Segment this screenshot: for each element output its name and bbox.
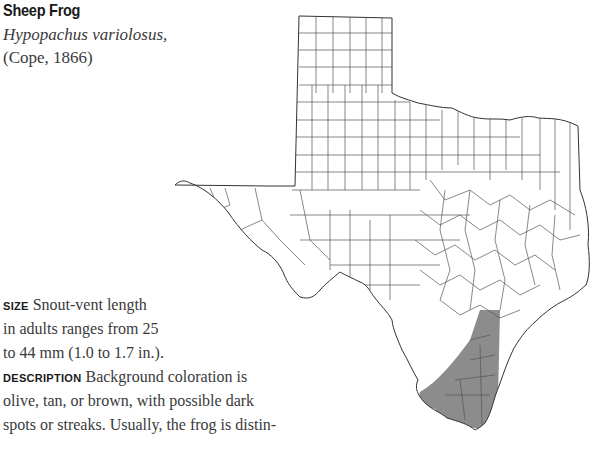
size-label: SIZE bbox=[3, 300, 29, 312]
scientific-name: Hypopachus variolosus, bbox=[3, 25, 167, 45]
description-label: DESCRIPTION bbox=[3, 372, 81, 384]
texas-range-map bbox=[170, 0, 602, 471]
authority: (Cope, 1866) bbox=[3, 48, 93, 68]
size-line-2: in adults ranges from 25 bbox=[3, 320, 159, 338]
size-line-1: SIZESnout-vent length bbox=[3, 296, 147, 314]
species-title: Sheep Frog bbox=[3, 1, 80, 20]
size-line-3: to 44 mm (1.0 to 1.7 in.). bbox=[3, 344, 164, 362]
